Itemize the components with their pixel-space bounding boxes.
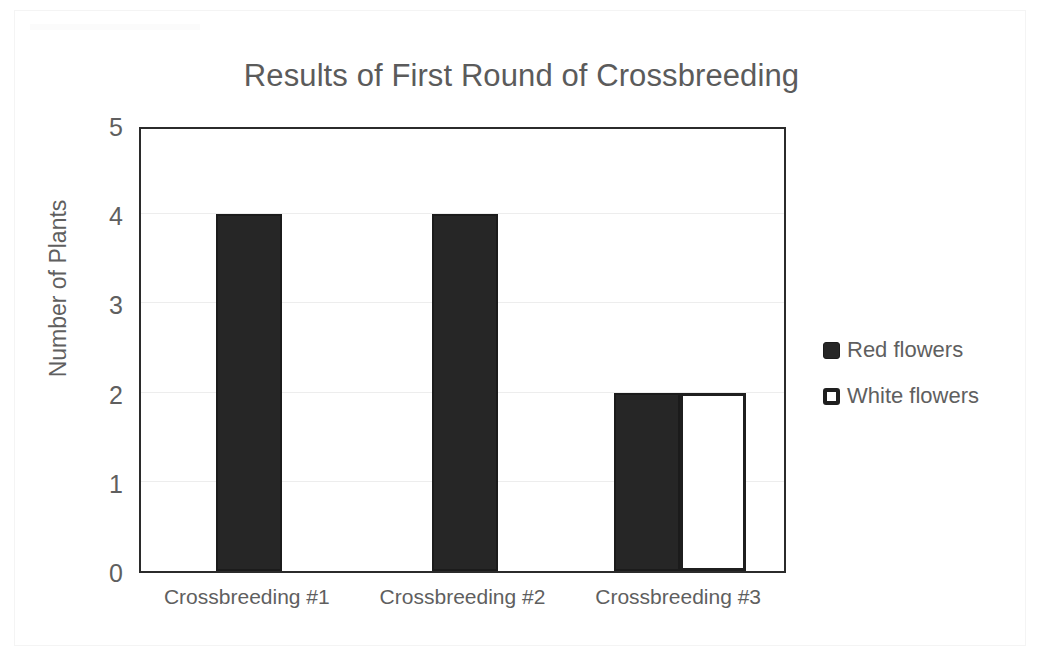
y-tick-label: 1: [109, 471, 123, 496]
bars-surface: [141, 129, 784, 571]
x-axis-tick-labels: Crossbreeding #1Crossbreeding #2Crossbre…: [139, 585, 786, 617]
y-tick-label: 4: [109, 204, 123, 229]
legend-label: Red flowers: [847, 337, 963, 363]
y-axis-tick-labels: 012345: [85, 127, 123, 573]
bar: [680, 393, 746, 571]
chart-title: Results of First Round of Crossbreeding: [0, 58, 1043, 94]
legend-item[interactable]: Red flowers: [823, 327, 1038, 373]
scan-artifact: [30, 24, 200, 30]
y-tick-label: 2: [109, 382, 123, 407]
x-tick-label: Crossbreeding #2: [380, 585, 546, 609]
legend-swatch-icon: [823, 388, 840, 405]
legend-label: White flowers: [847, 383, 979, 409]
x-tick-label: Crossbreeding #1: [164, 585, 330, 609]
bar: [216, 214, 282, 571]
legend-item[interactable]: White flowers: [823, 373, 1038, 419]
chart-page: Results of First Round of Crossbreeding …: [0, 0, 1043, 669]
y-tick-label: 3: [109, 293, 123, 318]
y-axis-title: Number of Plants: [45, 189, 72, 389]
bar: [614, 393, 680, 571]
y-tick-label: 5: [109, 115, 123, 140]
legend-swatch-icon: [823, 342, 840, 359]
bar: [432, 214, 498, 571]
plot-area: [139, 127, 786, 573]
chart-legend: Red flowersWhite flowers: [823, 327, 1038, 419]
x-tick-label: Crossbreeding #3: [595, 585, 761, 609]
y-tick-label: 0: [109, 561, 123, 586]
